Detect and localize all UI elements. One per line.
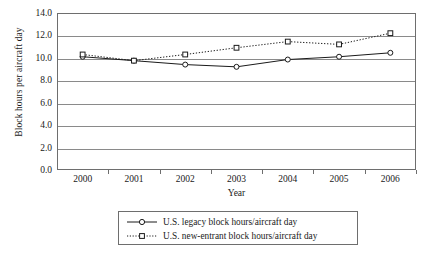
data-point-marker bbox=[285, 57, 290, 62]
data-point-marker bbox=[285, 39, 290, 44]
data-point-marker bbox=[337, 54, 342, 59]
legend-label-new-entrant: U.S. new-entrant block hours/aircraft da… bbox=[163, 230, 317, 242]
data-point-marker bbox=[234, 45, 239, 50]
data-point-marker bbox=[388, 31, 393, 36]
legend-item-legacy: U.S. legacy block hours/aircraft day bbox=[125, 215, 351, 229]
data-point-marker bbox=[388, 50, 393, 55]
dotted-line-square-marker-icon bbox=[125, 230, 159, 242]
legend-item-new-entrant: U.S. new-entrant block hours/aircraft da… bbox=[125, 229, 351, 243]
data-point-marker bbox=[234, 64, 239, 69]
solid-line-circle-marker-icon bbox=[125, 216, 159, 228]
data-point-marker bbox=[132, 58, 137, 63]
series-legacy bbox=[80, 50, 393, 69]
data-point-marker bbox=[183, 62, 188, 67]
series-new-entrant bbox=[80, 31, 393, 63]
line-chart: Block hours per aircraft day 0.02.04.06.… bbox=[0, 0, 431, 255]
data-point-marker bbox=[337, 42, 342, 47]
legend-label-legacy: U.S. legacy block hours/aircraft day bbox=[163, 216, 297, 228]
data-point-marker bbox=[80, 52, 85, 57]
legend: U.S. legacy block hours/aircraft day U.S… bbox=[118, 211, 358, 245]
data-point-marker bbox=[183, 52, 188, 57]
